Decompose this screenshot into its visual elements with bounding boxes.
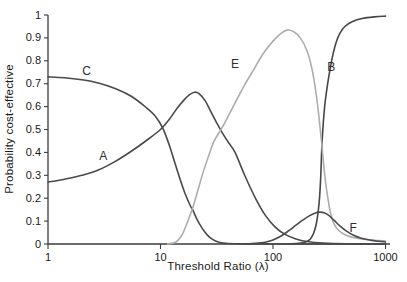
x-axis-title: Threshold Ratio (λ)	[48, 260, 388, 272]
curve-label-B: B	[327, 60, 335, 74]
y-tick-label: 0.7	[26, 77, 41, 89]
chart: 00.10.20.30.40.50.60.70.80.911101001000A…	[0, 0, 407, 282]
y-tick-label: 0.1	[26, 215, 41, 227]
y-tick-label: 0.5	[26, 123, 41, 135]
y-tick-label: 0.2	[26, 192, 41, 204]
y-tick-label: 0.3	[26, 169, 41, 181]
y-tick-label: 0	[35, 238, 41, 250]
y-tick-label: 1	[35, 9, 41, 21]
y-tick-label: 0.8	[26, 54, 41, 66]
y-tick-label: 0.6	[26, 100, 41, 112]
chart-canvas: 00.10.20.30.40.50.60.70.80.911101001000A…	[0, 0, 407, 282]
curve-E	[167, 30, 385, 244]
curve-label-F: F	[349, 221, 356, 235]
curve-label-C: C	[82, 64, 91, 78]
y-tick-label: 0.4	[26, 146, 41, 158]
axis-spine	[48, 15, 390, 244]
y-axis-title: Probability cost-effective	[3, 59, 15, 199]
curve-B	[289, 16, 385, 244]
y-tick-label: 0.9	[26, 31, 41, 43]
curve-label-E: E	[231, 57, 239, 71]
curve-label-A: A	[99, 149, 107, 163]
